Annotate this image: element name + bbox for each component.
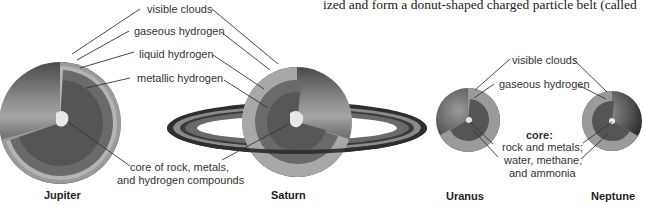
planet-name-uranus: Uranus bbox=[446, 190, 484, 202]
jupiter-cutaway bbox=[0, 62, 121, 184]
planet-name-neptune: Neptune bbox=[591, 190, 635, 202]
uranus-cutaway bbox=[436, 88, 500, 152]
body-text-line: ized and form a donut-shaped charged par… bbox=[323, 0, 637, 13]
planet-name-saturn: Saturn bbox=[271, 189, 306, 201]
saturn-cutaway bbox=[242, 67, 352, 177]
label-core-line1: core of rock, metals, bbox=[130, 161, 229, 173]
label-core-line2: and hydrogen compounds bbox=[117, 174, 244, 186]
label-ice-core-line1: rock and metals; bbox=[502, 141, 583, 153]
uranus-core bbox=[466, 117, 472, 123]
label-ice-core-line2: water, methane, bbox=[504, 154, 582, 166]
label-liquid-hydrogen: liquid hydrogen bbox=[139, 48, 214, 60]
label-ice-core-line3: and ammonia bbox=[509, 167, 576, 179]
planet-name-jupiter: Jupiter bbox=[44, 189, 81, 201]
label-ice-visible-clouds: visible clouds bbox=[512, 54, 577, 66]
label-metallic-hydrogen: metallic hydrogen bbox=[137, 72, 223, 84]
label-gaseous-hydrogen: gaseous hydrogen bbox=[134, 25, 225, 37]
planet-interiors-figure: ized and form a donut-shaped charged par… bbox=[0, 0, 645, 206]
label-ice-core-title: core: bbox=[526, 129, 553, 141]
neptune-cutaway bbox=[582, 91, 642, 151]
label-visible-clouds: visible clouds bbox=[147, 3, 212, 15]
label-ice-gaseous-hydrogen: gaseous hydrogen bbox=[499, 78, 590, 90]
